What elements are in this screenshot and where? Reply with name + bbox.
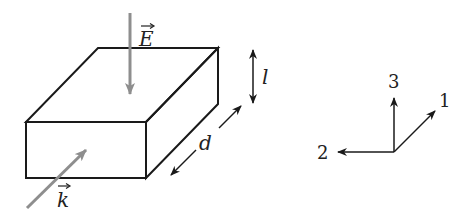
axis-3-label: 3 [388, 71, 399, 92]
axis-1-arrow [394, 111, 435, 152]
axis-2-label: 2 [317, 142, 328, 163]
diagram-canvas: E k l d 2 3 1 [0, 0, 462, 217]
k-label-text: k [57, 188, 69, 212]
axis-1-label: 1 [439, 90, 450, 111]
length-label: d [199, 131, 212, 155]
e-label-text: E [138, 27, 154, 51]
thickness-label: l [262, 65, 268, 89]
wave-vector-label: k [57, 184, 70, 213]
slab-top-face [26, 48, 218, 122]
coordinate-axes [338, 98, 435, 152]
slab-side-face [146, 48, 218, 178]
slab [26, 48, 218, 178]
electric-field-label: E [138, 24, 154, 52]
